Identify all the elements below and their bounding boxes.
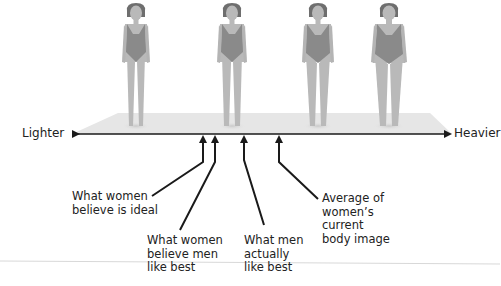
pointer-women-current bbox=[279, 139, 318, 199]
figure-heaviest bbox=[371, 3, 407, 130]
pointer-men-actually bbox=[244, 139, 264, 225]
pointer-women-believe-men bbox=[180, 139, 215, 230]
figure-slim bbox=[217, 3, 247, 130]
figure-average bbox=[302, 3, 334, 130]
annotation-women-believe-men: What women believe men like best bbox=[147, 234, 223, 275]
axis-label-heavier: Heavier bbox=[454, 126, 501, 140]
axis-label-lighter: Lighter bbox=[22, 126, 64, 140]
annotation-women-ideal: What women believe is ideal bbox=[72, 190, 158, 217]
annotation-women-current: Average of women’s current body image bbox=[322, 192, 390, 246]
pointer-women-ideal bbox=[152, 139, 203, 196]
annotation-men-actually: What men actually like best bbox=[244, 234, 303, 275]
figure-thinnest bbox=[122, 3, 150, 130]
